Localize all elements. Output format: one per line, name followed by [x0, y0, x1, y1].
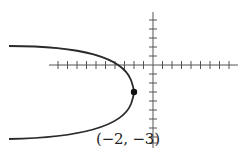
parabola-curve [9, 46, 134, 139]
vertex-label: (−2, −3) [96, 130, 160, 148]
x-axis [49, 61, 238, 69]
vertex-point [131, 89, 137, 95]
y-axis [149, 12, 157, 148]
